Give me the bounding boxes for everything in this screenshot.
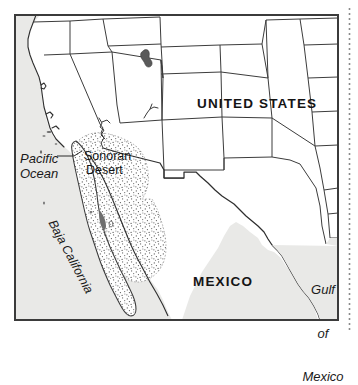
label-gulf-line3: Mexico [299, 370, 347, 385]
